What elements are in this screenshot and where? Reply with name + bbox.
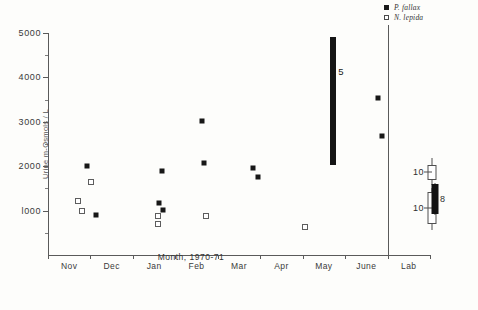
data-point: [85, 163, 90, 168]
data-point: [199, 119, 204, 124]
may-bar: [330, 37, 336, 165]
chart-legend: P. fallax N. lepida: [384, 3, 476, 23]
data-point: [79, 208, 85, 214]
data-point: [155, 213, 161, 219]
data-point: [159, 169, 164, 174]
lab-lower-open-range-label: 10: [413, 203, 424, 213]
y-tick-1000: [43, 211, 48, 212]
data-point: [202, 160, 207, 165]
lab-open-range-leader: [424, 172, 432, 173]
legend-entry-p-fallax: P. fallax: [384, 3, 476, 12]
y-minor-tick-4500: [45, 55, 48, 56]
x-tick-label-apr: Apr: [274, 261, 288, 271]
may-bar-label: 5: [338, 65, 344, 76]
data-point: [376, 96, 381, 101]
x-tick-label-may: May: [315, 261, 332, 271]
data-point: [256, 174, 261, 179]
y-minor-tick-3500: [45, 100, 48, 101]
lab-divider-line: [388, 25, 389, 255]
legend-label-p-fallax: P. fallax: [394, 3, 420, 12]
y-tick-5000: [43, 33, 48, 34]
data-point: [155, 221, 161, 227]
data-point: [250, 165, 255, 170]
x-tick-label-lab: Lab: [401, 261, 416, 271]
filled-square-icon: [384, 5, 389, 10]
y-minor-tick-1500: [45, 188, 48, 189]
y-tick-label-3000: 3000: [19, 117, 41, 127]
data-point: [203, 213, 209, 219]
y-tick-label-2000: 2000: [19, 161, 41, 171]
data-point: [88, 179, 94, 185]
lab-filled-range-label: 8: [440, 194, 445, 204]
figure-canvas: P. fallax N. lepida l0002000300040005000…: [0, 0, 478, 310]
x-tick-end: [430, 255, 431, 259]
y-tick-4000: [43, 77, 48, 78]
x-tick-lab: [388, 255, 389, 259]
y-tick-label-4000: 4000: [19, 72, 41, 82]
y-axis-title: Urine m-Osmols / L: [41, 109, 50, 179]
data-point: [157, 200, 162, 205]
plot-area: l0002000300040005000 NovDecJanFebMarAprM…: [48, 33, 430, 255]
x-axis-title: Month, 1970-71: [158, 252, 225, 262]
x-tick-dec: [90, 255, 91, 259]
x-tick-label-mar: Mar: [231, 261, 247, 271]
open-square-icon: [384, 15, 389, 20]
x-tick-label-nov: Nov: [61, 261, 77, 271]
x-tick-label-dec: Dec: [103, 261, 119, 271]
lab-filled-range-box: [432, 184, 439, 214]
x-tick-label-jan: Jan: [147, 261, 162, 271]
y-tick-label-1000: l000: [22, 206, 41, 216]
legend-entry-n-lepida: N. lepida: [384, 13, 476, 22]
data-point: [302, 224, 308, 230]
y-tick-label-5000: 5000: [19, 28, 41, 38]
x-tick-nov: [48, 255, 49, 259]
legend-label-n-lepida: N. lepida: [394, 13, 423, 22]
x-tick-may: [303, 255, 304, 259]
x-tick-label-june: June: [356, 261, 376, 271]
x-axis-line: [48, 255, 430, 256]
x-tick-apr: [260, 255, 261, 259]
data-point: [93, 213, 98, 218]
data-point: [379, 133, 384, 138]
data-point: [160, 207, 165, 212]
data-point: [75, 198, 81, 204]
y-minor-tick-500: [45, 233, 48, 234]
x-tick-label-feb: Feb: [189, 261, 205, 271]
lab-open-range-label: 10: [413, 167, 424, 177]
x-tick-june: [345, 255, 346, 259]
x-tick-jan: [133, 255, 134, 259]
